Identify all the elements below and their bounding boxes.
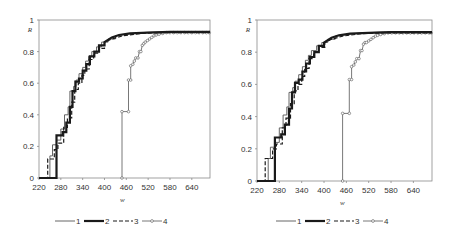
legend-label: 3	[355, 217, 360, 226]
y-axis: 00.20.40.60.81R	[241, 16, 257, 186]
x-tick-label: 220	[250, 186, 264, 195]
y-tick-label: 0	[30, 174, 35, 183]
x-tick-label: 280	[54, 183, 68, 192]
data-point-marker	[341, 180, 344, 183]
series-2	[257, 32, 432, 181]
plot-area	[39, 20, 210, 178]
data-point-marker	[353, 64, 356, 67]
x-axis-label: w	[120, 196, 125, 204]
data-point-marker	[132, 63, 135, 66]
y-axis-label: R	[245, 26, 251, 34]
data-point-marker	[127, 110, 130, 113]
legend-label: 1	[76, 217, 81, 226]
data-point-marker	[341, 112, 344, 115]
legend-label: 1	[297, 217, 302, 226]
y-tick-label: 0	[248, 177, 253, 186]
y-tick-label: 0.8	[23, 48, 35, 57]
y-tick-label: 0.4	[23, 111, 35, 120]
series-1	[257, 32, 432, 181]
y-tick-label: 0.6	[23, 79, 35, 88]
x-tick-label: 520	[362, 186, 376, 195]
figure: 00.20.40.60.81R220280340400460520580640w…	[0, 0, 451, 240]
x-tick-label: 340	[76, 183, 90, 192]
legend-label: 2	[105, 217, 110, 226]
data-point-marker	[133, 60, 136, 63]
data-point-marker	[137, 57, 140, 60]
legend-item-3: 3	[334, 217, 360, 226]
x-tick-label: 340	[295, 186, 309, 195]
plot-area	[257, 20, 432, 181]
series-2	[39, 32, 210, 178]
data-point-marker	[361, 49, 364, 52]
x-tick-label: 400	[317, 186, 331, 195]
legend-label: 3	[134, 217, 139, 226]
legend-item-2: 2	[305, 217, 331, 226]
data-point-marker	[121, 177, 124, 180]
x-tick-label: 280	[273, 186, 287, 195]
x-tick-label: 460	[120, 183, 134, 192]
series-3	[257, 33, 432, 181]
data-point-marker	[348, 112, 351, 115]
y-tick-label: 0.4	[241, 113, 253, 122]
x-tick-label: 580	[163, 183, 177, 192]
data-point-marker	[121, 110, 124, 113]
legend-item-4: 4	[142, 217, 168, 226]
legend-item-3: 3	[113, 217, 139, 226]
series-3	[39, 33, 210, 178]
y-tick-label: 0.2	[241, 145, 253, 154]
legend-label: 2	[326, 217, 331, 226]
data-point-marker	[354, 61, 357, 64]
series-4	[341, 32, 432, 183]
data-point-marker	[358, 57, 361, 60]
x-tick-label: 580	[384, 186, 398, 195]
series-1	[39, 32, 210, 178]
x-axis-label: w	[340, 199, 345, 207]
legend-item-1: 1	[55, 217, 81, 226]
series-4	[121, 31, 211, 179]
chart-panel-right: 00.20.40.60.81R220280340400460520580640w…	[241, 16, 433, 226]
x-tick-label: 400	[98, 183, 112, 192]
data-point-marker	[129, 79, 132, 82]
y-tick-label: 0.6	[241, 80, 253, 89]
x-axis: 220280340400460520580640w	[32, 178, 199, 204]
x-tick-label: 220	[32, 183, 46, 192]
x-tick-label: 640	[407, 186, 421, 195]
chart-panel-left: 00.20.40.60.81R220280340400460520580640w…	[23, 16, 211, 226]
y-axis-label: R	[27, 26, 33, 34]
legend-label: 4	[384, 217, 389, 226]
legend: 1234	[55, 217, 168, 226]
data-point-marker	[140, 50, 143, 53]
legend-item-4: 4	[363, 217, 389, 226]
y-axis: 00.20.40.60.81R	[23, 16, 39, 183]
y-tick-label: 1	[248, 16, 253, 25]
data-point-marker	[350, 78, 353, 81]
x-tick-label: 640	[185, 183, 199, 192]
y-tick-label: 1	[30, 16, 35, 25]
x-axis: 220280340400460520580640w	[250, 181, 420, 207]
data-point-marker	[155, 34, 158, 37]
data-point-marker	[376, 34, 379, 37]
legend-item-2: 2	[84, 217, 110, 226]
legend-label: 4	[163, 217, 168, 226]
legend-item-1: 1	[276, 217, 302, 226]
y-tick-label: 0.8	[241, 48, 253, 57]
x-tick-label: 520	[141, 183, 155, 192]
legend: 1234	[276, 217, 389, 226]
x-tick-label: 460	[340, 186, 354, 195]
y-tick-label: 0.2	[23, 142, 35, 151]
